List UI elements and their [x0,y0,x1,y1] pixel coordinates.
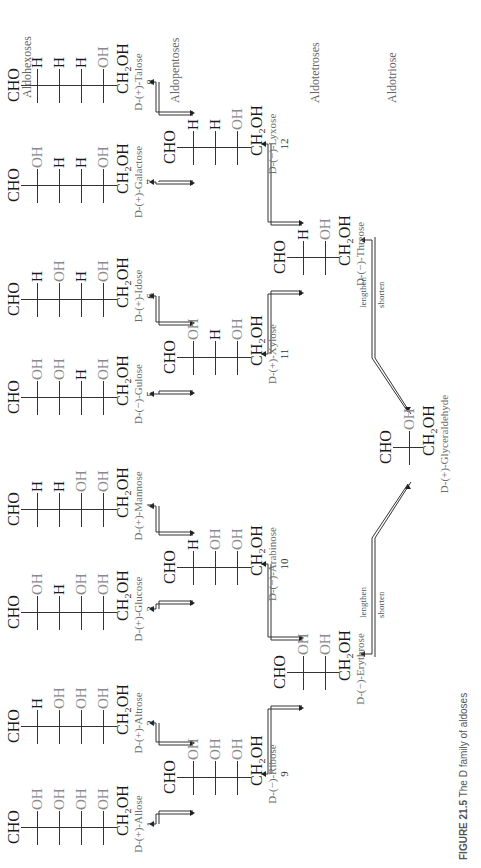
right-substituent: H [208,329,223,340]
right-substituent: H [74,57,89,68]
right-substituent: OH [74,687,89,709]
right-substituent: OH [30,358,45,380]
group-ch2oh: CH₂OH [115,570,130,621]
row-label-aldotetroses: Aldotetroses [308,42,323,103]
sugar-name: D-(−)-Lyxose [266,114,278,175]
group-cho: CHO [378,430,393,464]
sugar-number: 8 [144,79,156,85]
backbone-bond [287,257,339,258]
sugar-name: D-(−)-Erythrose [354,633,366,705]
sugar-number: 3 [144,606,156,612]
sugar-name: D-(+)-Glucose [132,577,144,642]
substituent-bond [193,131,194,165]
substituent-bond [81,169,82,203]
substituent-bond [103,493,104,527]
right-substituent: OH [186,318,201,340]
sugar-number: 11 [278,349,290,360]
group-ch2oh: CH₂OH [115,143,130,194]
group-ch2oh: CH₂OH [115,43,130,94]
figure-caption: FIGURE 21.5 The D family of aldoses [458,693,469,860]
substituent-bond [59,811,60,845]
substituent-bond [237,761,238,795]
sugar-name: D-(+)-Xylose [266,324,278,384]
right-substituent: OH [208,738,223,760]
substituent-bond [81,710,82,744]
substituent-bond [409,431,410,465]
substituent-bond [37,169,38,203]
group-ch2oh: CH₂OH [337,215,352,266]
aldose-family-diagram: CHOHOHHOHHOHHOHCH₂OHD-(+)-Allose1CHOHOHH… [0,0,481,868]
row-label-aldopentoses: Aldopentoses [168,38,183,103]
right-substituent: OH [52,358,67,380]
substituent-bond [103,283,104,317]
substituent-bond [59,381,60,415]
right-substituent: OH [318,633,333,655]
right-substituent: OH [74,788,89,810]
sugar-name: D-(+)-Talose [132,53,144,110]
substituent-bond [81,596,82,630]
group-ch2oh: CH₂OH [249,105,264,156]
right-substituent: OH [96,788,111,810]
sugar-number: 9 [278,771,290,777]
substituent-bond [103,811,104,845]
right-substituent: H [30,271,45,282]
substituent-bond [103,69,104,103]
group-ch2oh: CH₂OH [249,315,264,366]
right-substituent: OH [96,146,111,168]
group-ch2oh: CH₂OH [337,630,352,681]
ladder-label-lengthen-right: lengthen [358,277,368,308]
sugar-name: D-(−)-Arabinose [266,527,278,601]
group-cho: CHO [162,550,177,584]
group-ch2oh: CH₂OH [249,525,264,576]
substituent-bond [37,283,38,317]
right-substituent: H [74,369,89,380]
backbone-bond [177,777,251,778]
right-substituent: OH [96,687,111,709]
substituent-bond [59,69,60,103]
backbone-bond [287,672,339,673]
right-substituent: OH [96,358,111,380]
group-ch2oh: CH₂OH [115,684,130,735]
group-cho: CHO [162,760,177,794]
substituent-bond [237,341,238,375]
caption-text: The D family of aldoses [458,693,469,798]
row-label-aldohexoses: Aldohexoses [20,36,35,98]
group-cho: CHO [6,68,21,102]
right-substituent: OH [96,470,111,492]
right-substituent: OH [74,470,89,492]
sugar-number: 2 [144,720,156,726]
substituent-bond [59,596,60,630]
right-substituent: OH [52,260,67,282]
sugar-number: 4 [144,503,156,509]
right-substituent: OH [30,146,45,168]
sugar-number: 5 [144,391,156,397]
substituent-bond [81,69,82,103]
substituent-bond [81,493,82,527]
substituent-bond [103,710,104,744]
group-cho: CHO [6,595,21,629]
substituent-bond [37,493,38,527]
group-cho: CHO [6,380,21,414]
group-ch2oh: CH₂OH [115,785,130,836]
right-substituent: OH [30,788,45,810]
right-substituent: OH [230,738,245,760]
sugar-name: D-(+)-Galactose [132,146,144,218]
substituent-bond [103,169,104,203]
substituent-bond [215,131,216,165]
substituent-bond [59,493,60,527]
right-substituent: H [30,698,45,709]
substituent-bond [103,381,104,415]
substituent-bond [81,283,82,317]
right-substituent: OH [96,573,111,595]
ladder-label-shorten-left: shorten [376,592,386,619]
substituent-bond [103,596,104,630]
sugar-name: D-(+)-Altrose [132,692,144,753]
group-cho: CHO [6,810,21,844]
substituent-bond [215,551,216,585]
right-substituent: H [208,119,223,130]
substituent-bond [37,596,38,630]
substituent-bond [59,169,60,203]
group-ch2oh: CH₂OH [115,355,130,406]
right-substituent: H [296,229,311,240]
group-cho: CHO [6,709,21,743]
